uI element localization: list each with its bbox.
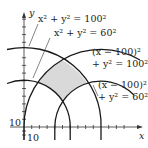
label-circle-c4-line2: + y² = 60²	[98, 92, 148, 102]
x-tick-label-10: 10	[27, 133, 39, 143]
label-circle-x2-y2-100: x² + y² = 100²	[38, 14, 106, 24]
label-circle-x2-y2-60: x² + y² = 60²	[54, 28, 116, 38]
label-circle-c4-line1: (x − 100)²	[98, 80, 147, 90]
y-axis-label: y	[29, 8, 34, 18]
leader-line-c1	[29, 24, 38, 46]
label-circle-c3-line2: + y² = 100²	[92, 59, 148, 69]
label-circle-c3-line1: (x − 100)²	[92, 47, 141, 57]
diagram-canvas: y x 10 10 x² + y² = 100² x² + y² = 60² (…	[0, 0, 148, 148]
x-axis-label: x	[139, 131, 144, 141]
y-tick-label-10: 10	[9, 118, 21, 128]
